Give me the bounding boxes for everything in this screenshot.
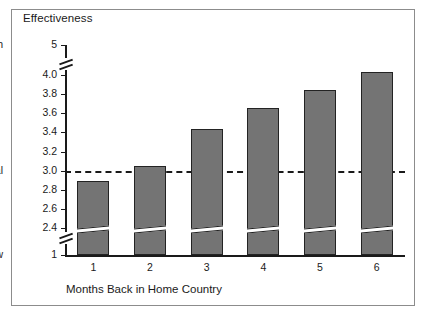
x-tick-label: 4 — [260, 261, 266, 273]
y-tick-label-3-4: 3.4 — [42, 125, 57, 137]
bar — [304, 90, 336, 255]
bar — [191, 129, 223, 255]
y-tick-label-4-0: 4.0 — [42, 68, 57, 80]
bar-axis-break-slash — [77, 224, 109, 233]
bar-axis-break-slash — [191, 224, 223, 233]
y-tick-label-high: 5 — [51, 38, 57, 50]
y-tick-mark-3-6 — [61, 113, 66, 114]
bar-axis-break-slash — [304, 224, 336, 233]
bar — [134, 166, 166, 255]
bar-axis-break-slash — [134, 224, 166, 233]
bar-axis-break-slash — [247, 224, 279, 233]
y-tick-mark-2-8 — [61, 190, 66, 191]
y-tick-label-2-6: 2.6 — [42, 202, 57, 214]
chart-figure: Effectiveness High54.03.83.63.43.2Neutra… — [0, 0, 427, 317]
y-tick-label-2-4: 2.4 — [42, 221, 57, 233]
y-tick-label-3-8: 3.8 — [42, 87, 57, 99]
bar — [247, 108, 279, 255]
y-tick-label-2-8: 2.8 — [42, 183, 57, 195]
y-tick-mark-high — [61, 45, 66, 46]
y-tick-label-low: 1 — [51, 248, 57, 260]
bar — [77, 181, 109, 255]
x-axis-title: Months Back in Home Country — [66, 283, 222, 295]
y-tick-mark-2-6 — [61, 209, 66, 210]
bar-axis-break-slash — [361, 224, 393, 233]
y-tick-label-3-2: 3.2 — [42, 145, 57, 157]
y-tick-mark-3-4 — [61, 132, 66, 133]
x-tick-label: 5 — [317, 261, 323, 273]
neutral-reference-line — [65, 171, 405, 173]
x-axis-line — [65, 255, 405, 257]
x-tick-label: 3 — [204, 261, 210, 273]
y-axis-ticks: High54.03.83.63.43.2Neutral3.02.82.62.4L… — [0, 0, 65, 317]
y-tick-mark-3-2 — [61, 152, 66, 153]
y-tick-mark-2-4 — [61, 228, 66, 229]
y-axis-break-mark-lower — [59, 232, 73, 244]
y-anchor-label-low: Low — [0, 248, 3, 260]
y-tick-label-3-6: 3.6 — [42, 106, 57, 118]
y-anchor-label-3-0: Neutral — [0, 164, 3, 176]
y-tick-mark-4-0 — [61, 75, 66, 76]
x-tick-label: 6 — [374, 261, 380, 273]
x-tick-label: 1 — [90, 261, 96, 273]
y-tick-mark-low — [61, 255, 66, 256]
y-tick-mark-3-8 — [61, 94, 66, 95]
y-anchor-label-high: High — [0, 38, 3, 50]
bar — [361, 72, 393, 255]
y-axis-break-mark-upper — [59, 58, 73, 70]
x-tick-label: 2 — [147, 261, 153, 273]
y-tick-label-3-0: 3.0 — [42, 164, 57, 176]
